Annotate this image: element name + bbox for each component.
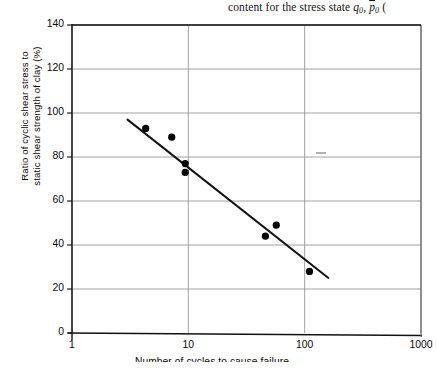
y-tick-label-120: 120 [28,62,64,73]
x-tick-label-100: 100 [285,339,325,350]
page-artifact-mark [316,152,326,154]
y-tick-label-140: 140 [28,18,64,29]
data-point-2[interactable] [182,160,189,167]
data-point-1[interactable] [168,134,175,141]
page-bottom-margin [0,362,424,371]
axes-group [67,24,422,340]
data-point-0[interactable] [142,125,149,132]
trend-line-group [128,120,329,278]
y-tick-label-60: 60 [28,194,64,205]
y-tick-label-80: 80 [28,150,64,161]
x-tick-label-10: 10 [168,339,208,350]
x-tick-label-1000: 1000 [401,339,437,350]
data-points-group [142,125,313,275]
y-tick-label-20: 20 [28,282,64,293]
data-point-5[interactable] [273,222,280,229]
y-tick-label-40: 40 [28,238,64,249]
data-point-6[interactable] [306,268,313,275]
data-point-4[interactable] [262,233,269,240]
x-tick-label-1: 1 [52,339,92,350]
x-axis-line [68,333,422,336]
y-tick-label-0: 0 [28,326,64,337]
gridlines-group [72,25,421,333]
data-point-3[interactable] [182,169,189,176]
trend-line [128,120,329,278]
y-tick-label-100: 100 [28,106,64,117]
